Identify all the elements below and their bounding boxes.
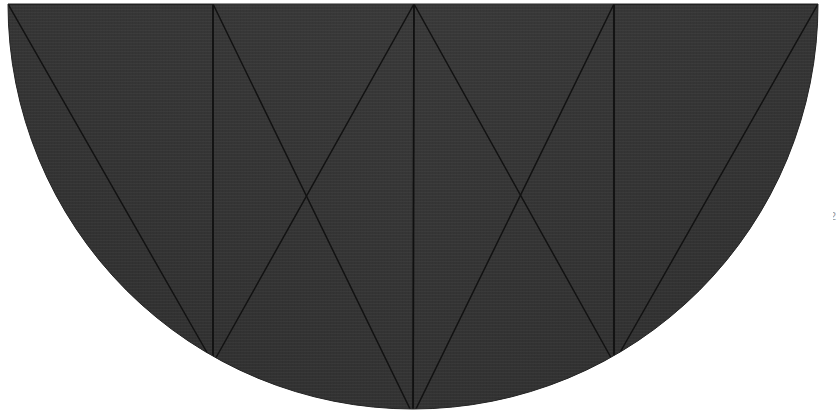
panel-seam-2 xyxy=(413,4,414,415)
canvas-stage: 2 xyxy=(0,0,840,420)
edge-digit-label: 2 xyxy=(833,211,840,222)
semicircular-fan-figure xyxy=(0,0,840,420)
